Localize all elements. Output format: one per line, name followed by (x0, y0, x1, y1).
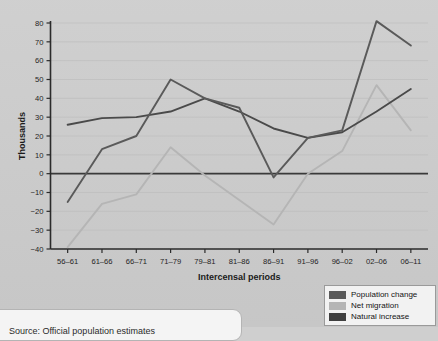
y-tick-label: 0 (39, 169, 43, 178)
y-tick-label: 10 (35, 151, 43, 160)
x-tick-label: 81–86 (229, 257, 250, 266)
y-tick-label: −10 (31, 188, 44, 197)
y-tick-label: 40 (35, 94, 43, 103)
y-tick-label: 60 (35, 56, 43, 65)
y-tick-label: −30 (31, 226, 44, 235)
gridlines-group (51, 23, 429, 249)
legend-item-net-migration[interactable]: Net migration (329, 300, 430, 311)
legend-swatch-population-change (329, 291, 346, 299)
x-tick-label: 91–96 (297, 257, 318, 266)
legend-item-population-change[interactable]: Population change (329, 289, 430, 300)
x-tick-label: 86–91 (263, 257, 284, 266)
y-tick-labels: 80706050403020100−10−20−30−40 (31, 19, 44, 254)
chart-legend: Population change Net migration Natural … (324, 285, 436, 326)
y-tick-label: 30 (35, 113, 43, 122)
legend-label-natural-increase: Natural increase (351, 312, 409, 322)
caption-box: Source: Official population estimates (0, 309, 242, 341)
x-tick-label: 56–61 (57, 257, 78, 266)
x-tick-labels: 56–6161–6666–7171–7979–8181–8686–9191–96… (57, 257, 421, 266)
legend-label-net-migration: Net migration (351, 301, 399, 311)
data-series-group (68, 21, 411, 247)
legend-swatch-natural-increase (329, 313, 346, 321)
axes-group (47, 21, 429, 253)
y-tick-label: 20 (35, 132, 43, 141)
legend-item-natural-increase[interactable]: Natural increase (329, 311, 430, 322)
y-tick-label: 50 (35, 75, 43, 84)
x-tick-label: 71–79 (160, 257, 181, 266)
legend-swatch-net-migration (329, 302, 346, 310)
y-axis-title: Thousands (17, 112, 27, 160)
caption-text: Source: Official population estimates (9, 326, 155, 336)
y-tick-label: −20 (31, 207, 44, 216)
series-line-natural-increase (68, 89, 411, 138)
x-tick-label: 02–06 (366, 257, 387, 266)
x-tick-label: 79–81 (194, 257, 215, 266)
x-tick-label: 66–71 (126, 257, 147, 266)
y-tick-label: 70 (35, 38, 43, 47)
x-tick-label: 06–11 (401, 257, 422, 266)
x-tick-label: 61–66 (91, 257, 112, 266)
x-axis-title: Intercensal periods (198, 272, 281, 282)
y-tick-label: −40 (31, 245, 44, 254)
x-tick-label: 96–02 (332, 257, 353, 266)
legend-label-population-change: Population change (351, 290, 417, 300)
y-tick-label: 80 (35, 19, 43, 28)
